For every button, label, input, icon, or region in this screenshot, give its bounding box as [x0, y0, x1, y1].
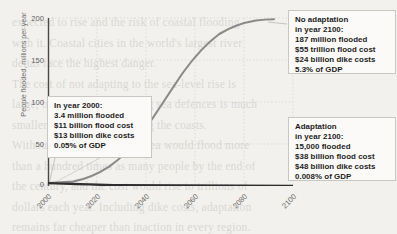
annotation-line: 0.008% of GDP: [295, 172, 390, 182]
flood-projection-chart: People flooded, millions per year 200 15…: [0, 0, 397, 234]
annotation-line: Adaptation: [295, 122, 390, 132]
y-tick-50: 50: [18, 140, 44, 149]
y-tick-100: 100: [18, 98, 44, 107]
leader-line-noadapt: [268, 22, 287, 24]
y-tick-200: 200: [18, 14, 44, 23]
annotation-no-adaptation-2100: No adaptation in year 2100: 187 million …: [288, 10, 396, 74]
annotation-line: 0.05% of GDP: [54, 141, 146, 151]
annotation-line: 5.3% of GDP: [295, 65, 390, 75]
annotation-line: 3.4 million flooded: [54, 111, 146, 121]
annotation-line: $55 trillion flood cost: [295, 45, 390, 55]
annotation-line: $48 billion dike costs: [295, 162, 390, 172]
annotation-year-2000: In year 2000: 3.4 million flooded $11 bi…: [47, 96, 152, 158]
series-adaptation: [49, 183, 294, 186]
annotation-line: In year 2000:: [54, 101, 146, 111]
annotation-line: in year 2100:: [295, 132, 390, 142]
annotation-line: 187 million flooded: [295, 35, 390, 45]
annotation-line: $11 billion flood cost: [54, 121, 146, 131]
annotation-line: $24 billion dike costs: [295, 55, 390, 65]
y-tick-0: 0: [18, 180, 44, 189]
annotation-line: in year 2100:: [295, 25, 390, 35]
y-tick-150: 150: [18, 56, 44, 65]
leader-line-year2000: [49, 158, 55, 184]
annotation-line: $38 billion flood cost: [295, 152, 390, 162]
annotation-line: 15,000 flooded: [295, 142, 390, 152]
annotation-line: No adaptation: [295, 15, 390, 25]
annotation-adaptation-2100: Adaptation in year 2100: 15,000 flooded …: [288, 117, 396, 181]
annotation-line: $13 billion dike costs: [54, 131, 146, 141]
